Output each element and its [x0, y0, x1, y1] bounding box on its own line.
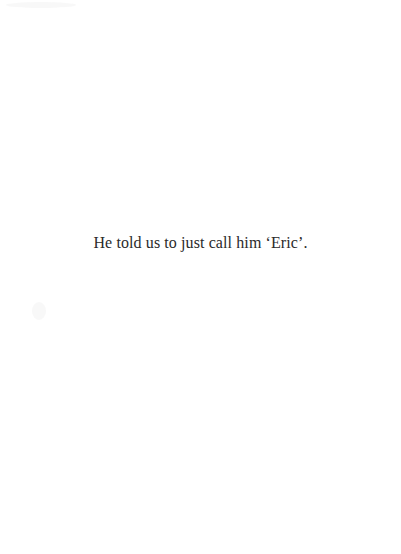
body-text-line: He told us to just call him ‘Eric’. [0, 234, 401, 252]
scan-artifact [6, 2, 76, 8]
book-page: He told us to just call him ‘Eric’. [0, 0, 401, 554]
scan-artifact [32, 302, 46, 320]
